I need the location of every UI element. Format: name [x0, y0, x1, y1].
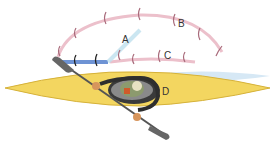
label-a: A [122, 34, 129, 45]
arc-b [58, 15, 222, 57]
paddler-head [132, 81, 142, 91]
arc-c [110, 59, 195, 62]
label-d: D [162, 86, 169, 97]
paddler-vest [124, 88, 130, 94]
hand-right [133, 113, 141, 121]
hand-left [92, 82, 100, 90]
paddle-blade-top [52, 56, 74, 72]
kayak-diagram [0, 0, 273, 148]
paddle-blade-bottom [148, 126, 170, 140]
label-c: C [164, 50, 171, 61]
label-b: B [178, 18, 185, 29]
